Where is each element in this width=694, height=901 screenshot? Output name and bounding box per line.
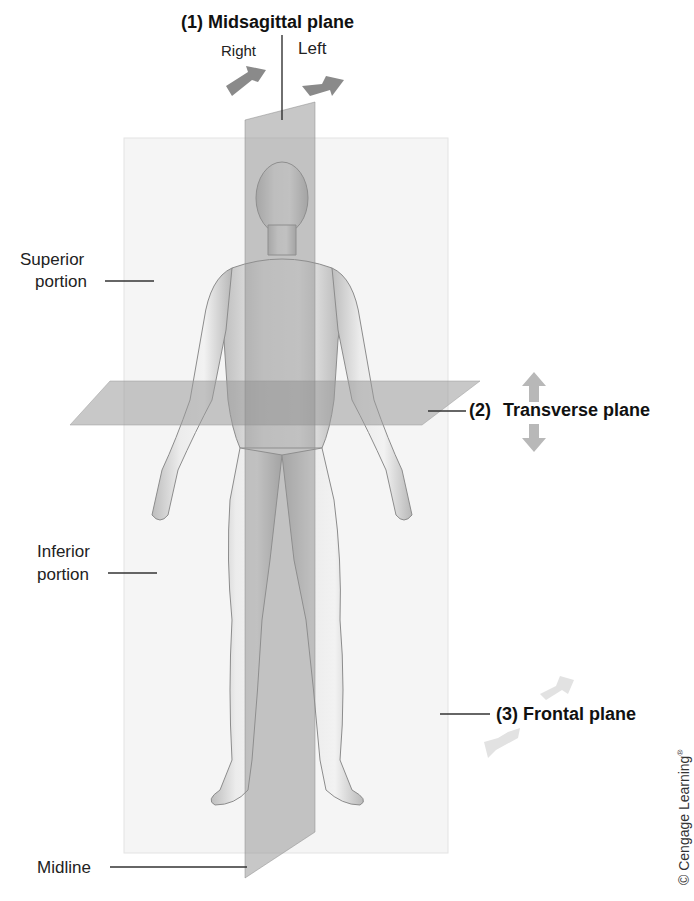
copyright-text: © Cengage Learning bbox=[676, 756, 692, 885]
right-arrow-icon bbox=[226, 66, 266, 96]
inferior-label-line2: portion bbox=[37, 564, 89, 585]
backward-arrow-icon bbox=[484, 728, 520, 758]
midsagittal-plane bbox=[245, 102, 315, 878]
transverse-plane-label: Transverse plane bbox=[503, 400, 650, 421]
copyright-notice: © Cengage Learning® bbox=[676, 750, 692, 885]
midline-label: Midline bbox=[37, 857, 91, 878]
body-planes-illustration bbox=[0, 0, 694, 901]
down-arrow-icon bbox=[522, 424, 546, 452]
anatomy-diagram: (1) Midsagittal plane Right Left Superio… bbox=[0, 0, 694, 901]
right-direction-label: Right bbox=[221, 40, 256, 61]
frontal-plane-label: (3) Frontal plane bbox=[496, 704, 636, 725]
transverse-plane-number: (2) bbox=[469, 400, 491, 421]
midsagittal-plane-label: (1) Midsagittal plane bbox=[181, 12, 354, 33]
left-arrow-icon bbox=[302, 76, 344, 96]
up-arrow-icon bbox=[522, 372, 546, 402]
superior-label-line2: portion bbox=[35, 271, 87, 292]
superior-label-line1: Superior bbox=[20, 249, 84, 270]
inferior-label-line1: Inferior bbox=[37, 541, 90, 562]
left-direction-label: Left bbox=[298, 38, 326, 59]
registered-mark: ® bbox=[676, 750, 685, 756]
forward-arrow-icon bbox=[540, 676, 574, 700]
